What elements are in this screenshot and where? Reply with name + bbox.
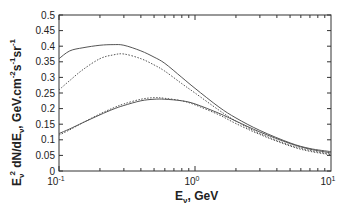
- y-tick-label: 0.45: [36, 25, 56, 36]
- x-tick-label: 10-1: [47, 175, 64, 187]
- x-tick-label: 101: [320, 175, 335, 187]
- y-axis-label: Eν2 dN/dEν, GeV.cm-2s-1sr-1: [8, 38, 26, 186]
- y-tick-label: 0.05: [36, 150, 56, 161]
- y-axis-ticks: 00.050.10.150.20.250.30.350.40.450.5: [36, 10, 331, 177]
- plot-frame: [59, 15, 331, 171]
- y-tick-label: 0.25: [36, 88, 56, 99]
- series-upper-solid: [59, 45, 331, 152]
- chart: 00.050.10.150.20.250.30.350.40.450.5 10-…: [0, 0, 347, 213]
- x-axis-label: Eν, GeV: [175, 189, 218, 205]
- data-series: [59, 45, 331, 155]
- y-tick-label: 0.2: [41, 103, 55, 114]
- x-tick-label: 100: [184, 175, 199, 187]
- y-tick-label: 0.1: [41, 134, 55, 145]
- y-tick-label: 0.4: [41, 41, 55, 52]
- y-tick-label: 0.35: [36, 56, 56, 67]
- y-tick-label: 0.15: [36, 119, 56, 130]
- series-lower-dotted: [59, 98, 331, 155]
- y-tick-label: 0: [49, 166, 55, 177]
- y-tick-label: 0.3: [41, 72, 55, 83]
- x-axis-ticks: 10-1100101: [47, 15, 335, 187]
- y-tick-label: 0.5: [41, 10, 55, 21]
